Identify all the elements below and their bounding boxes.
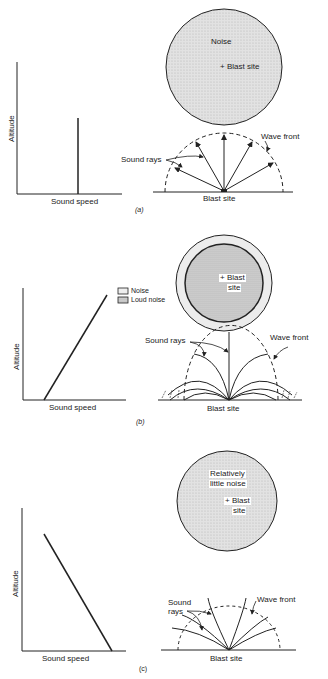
panel-a xyxy=(17,9,293,194)
map-label-little-noise: little noise xyxy=(209,480,247,488)
map-label-blast-site: + Blast site xyxy=(220,63,259,71)
map-label-site: site xyxy=(232,507,246,515)
legend-swatch-noise xyxy=(118,288,128,294)
ground-label-blast-site: Blast site xyxy=(203,195,235,203)
panel-a-ray-diagram xyxy=(153,133,293,192)
panel-c xyxy=(22,451,296,651)
panel-c-graph xyxy=(22,508,126,651)
wave-front-label: Wave front xyxy=(261,133,299,141)
sound-speed-profile-line xyxy=(44,295,107,400)
wave-front-label: Wave front xyxy=(270,334,308,342)
x-axis-label: Sound speed xyxy=(42,655,89,663)
ground-label-blast-site: Blast site xyxy=(210,655,242,663)
legend-swatch-loud-noise xyxy=(118,297,128,303)
map-label-blast: + Blast xyxy=(224,497,251,505)
y-axis-label: Altitude xyxy=(13,343,21,370)
sound-rays-label: Sound rays xyxy=(145,337,185,345)
panel-caption: (a) xyxy=(135,206,144,213)
panel-b-legend xyxy=(118,288,128,303)
x-axis-label: Sound speed xyxy=(51,198,98,206)
sound-speed-profile-line xyxy=(44,534,112,651)
panel-b-noise-map xyxy=(176,235,272,331)
panel-b-graph xyxy=(23,288,126,400)
wave-front-label: Wave front xyxy=(257,596,295,604)
x-axis-label: Sound speed xyxy=(49,404,96,412)
panel-b xyxy=(23,235,302,400)
sound-rays-label: Sound rays xyxy=(121,156,161,164)
map-label-noise: Noise xyxy=(211,38,231,46)
wave-front-arc xyxy=(178,606,280,650)
sound-rays-label-line2: rays xyxy=(168,608,183,616)
panel-caption: (c) xyxy=(139,665,147,672)
panel-a-graph xyxy=(17,62,122,194)
panel-caption: (b) xyxy=(136,418,145,425)
y-axis-label: Altitude xyxy=(8,115,16,142)
sound-rays-label-line1: Sound xyxy=(168,599,191,607)
map-label-blast: + Blast xyxy=(219,274,246,282)
y-axis-label: Altitude xyxy=(12,570,20,597)
map-label-site: site xyxy=(227,284,241,292)
legend-label-noise: Noise xyxy=(131,287,149,294)
legend-label-loud-noise: Loud noise xyxy=(131,296,165,303)
ground-label-blast-site: Blast site xyxy=(207,405,239,413)
map-label-relatively: Relatively xyxy=(209,470,246,478)
